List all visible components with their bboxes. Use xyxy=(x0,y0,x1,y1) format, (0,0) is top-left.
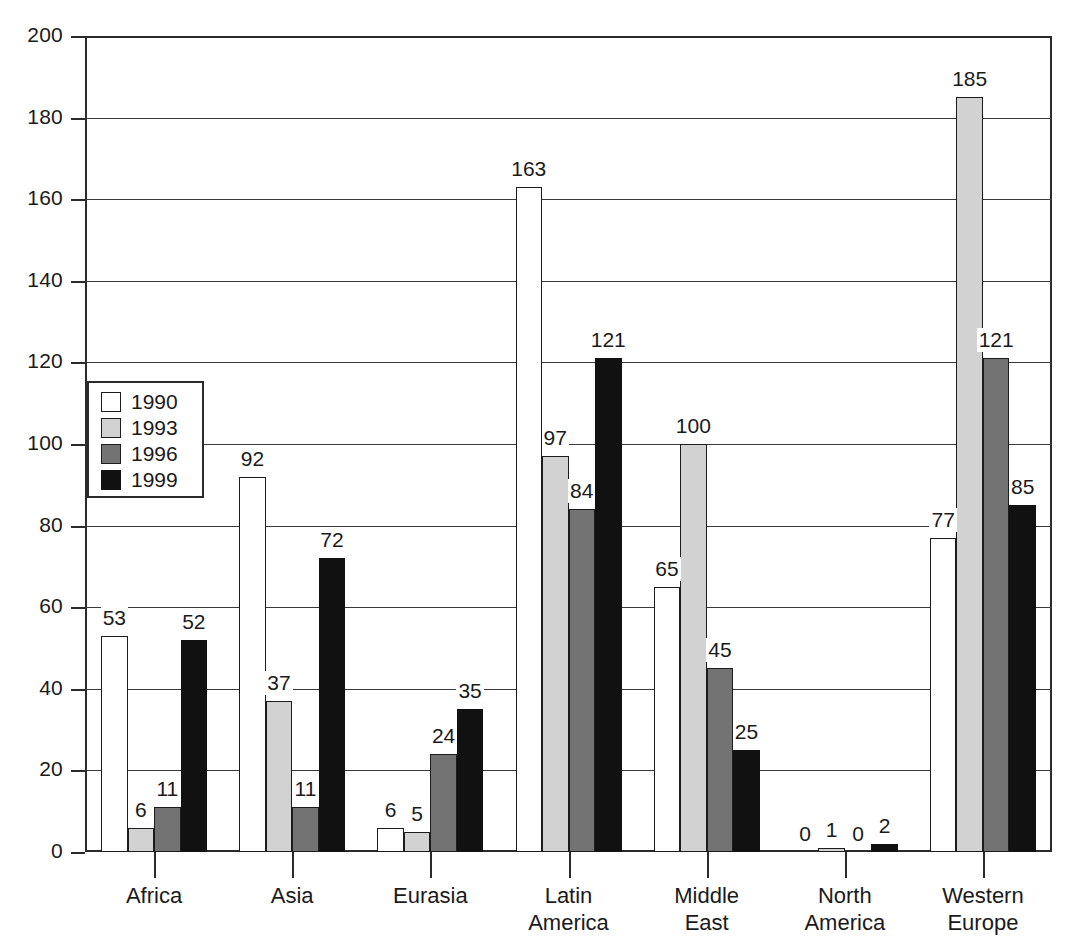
bar-value-africa-1996: 11 xyxy=(137,777,197,801)
bar-value-africa-1993: 6 xyxy=(111,798,171,822)
bar-value-western-europe-1996: 121 xyxy=(966,328,1026,352)
bar-value-asia-1996: 11 xyxy=(275,777,335,801)
bar-value-eurasia-1999: 35 xyxy=(440,679,500,703)
legend-item-1996[interactable]: 1996 xyxy=(101,441,202,467)
y-tick-80 xyxy=(71,526,85,528)
bar-value-middle-east-1996: 45 xyxy=(690,638,750,662)
bar-value-eurasia-1996: 24 xyxy=(414,724,474,748)
y-tick-40 xyxy=(71,689,85,691)
y-tick-160 xyxy=(71,199,85,201)
bar-western-europe-1996 xyxy=(983,358,1010,852)
bar-asia-1999 xyxy=(319,558,346,852)
bar-middle-east-1996 xyxy=(707,668,734,852)
bar-north-america-1993 xyxy=(818,848,845,852)
bar-value-eurasia-1993: 5 xyxy=(387,802,447,826)
bar-asia-1990 xyxy=(239,477,266,852)
bar-asia-1996 xyxy=(292,807,319,852)
gridline-140 xyxy=(85,281,1052,282)
bar-value-latin-america-1999: 121 xyxy=(578,328,638,352)
bar-latin-america-1999 xyxy=(595,358,622,852)
y-tick-label-120: 120 xyxy=(0,349,63,373)
bar-africa-1993 xyxy=(128,828,155,852)
legend-label-1990: 1990 xyxy=(131,390,178,414)
legend-swatch-icon-1999 xyxy=(101,470,121,490)
bar-eurasia-1990 xyxy=(377,828,404,852)
bar-value-north-america-1999: 2 xyxy=(855,814,915,838)
x-tick-label-middle-east: MiddleEast xyxy=(674,882,739,936)
bar-value-africa-1990: 53 xyxy=(84,606,144,630)
bar-western-europe-1999 xyxy=(1009,505,1036,852)
y-tick-label-140: 140 xyxy=(0,268,63,292)
y-tick-140 xyxy=(71,281,85,283)
bar-value-western-europe-1999: 85 xyxy=(993,475,1053,499)
y-tick-label-60: 60 xyxy=(0,594,63,618)
gridline-120 xyxy=(85,362,1052,363)
y-tick-label-100: 100 xyxy=(0,431,63,455)
bar-chart: 020406080100120140160180200 536115292371… xyxy=(0,0,1081,938)
legend-swatch-icon-1990 xyxy=(101,392,121,412)
x-tick-label-latin-america: LatinAmerica xyxy=(528,882,609,936)
bar-latin-america-1996 xyxy=(569,509,596,852)
bar-latin-america-1993 xyxy=(542,456,569,852)
bar-value-asia-1993: 37 xyxy=(249,671,309,695)
legend-item-1993[interactable]: 1993 xyxy=(101,415,202,441)
legend-item-1990[interactable]: 1990 xyxy=(101,389,202,415)
bar-value-middle-east-1993: 100 xyxy=(663,414,723,438)
bar-latin-america-1990 xyxy=(516,187,543,852)
bar-value-latin-america-1993: 97 xyxy=(525,426,585,450)
x-tick-latin-america xyxy=(569,852,571,878)
y-tick-180 xyxy=(71,118,85,120)
y-tick-0 xyxy=(71,852,85,854)
legend-swatch-icon-1993 xyxy=(101,418,121,438)
y-tick-label-160: 160 xyxy=(0,186,63,210)
y-tick-label-40: 40 xyxy=(0,676,63,700)
bar-eurasia-1993 xyxy=(404,832,431,852)
bar-value-latin-america-1990: 163 xyxy=(499,157,559,181)
x-tick-north-america xyxy=(845,852,847,878)
legend-swatch-icon-1996 xyxy=(101,444,121,464)
x-tick-africa xyxy=(154,852,156,878)
gridline-160 xyxy=(85,199,1052,200)
y-tick-label-20: 20 xyxy=(0,757,63,781)
gridline-180 xyxy=(85,118,1052,119)
legend-label-1993: 1993 xyxy=(131,416,178,440)
y-tick-label-200: 200 xyxy=(0,23,63,47)
bar-value-middle-east-1999: 25 xyxy=(716,720,776,744)
bar-africa-1999 xyxy=(181,640,208,852)
bar-middle-east-1999 xyxy=(733,750,760,852)
bar-value-asia-1990: 92 xyxy=(222,447,282,471)
x-tick-label-asia: Asia xyxy=(271,882,314,909)
bar-value-africa-1999: 52 xyxy=(164,610,224,634)
y-tick-60 xyxy=(71,607,85,609)
bar-value-western-europe-1993: 185 xyxy=(940,67,1000,91)
legend-item-1999[interactable]: 1999 xyxy=(101,467,202,493)
bar-value-asia-1999: 72 xyxy=(302,528,362,552)
bar-middle-east-1990 xyxy=(654,587,681,852)
bar-value-western-europe-1990: 77 xyxy=(913,508,973,532)
x-tick-eurasia xyxy=(430,852,432,878)
y-tick-label-0: 0 xyxy=(0,839,63,863)
x-tick-middle-east xyxy=(707,852,709,878)
x-tick-western-europe xyxy=(983,852,985,878)
legend: 1990199319961999 xyxy=(87,381,204,498)
legend-label-1999: 1999 xyxy=(131,468,178,492)
legend-label-1996: 1996 xyxy=(131,442,178,466)
x-tick-label-africa: Africa xyxy=(126,882,182,909)
bar-western-europe-1990 xyxy=(930,538,957,852)
y-tick-label-80: 80 xyxy=(0,513,63,537)
x-tick-label-eurasia: Eurasia xyxy=(393,882,468,909)
y-tick-label-180: 180 xyxy=(0,105,63,129)
x-tick-label-western-europe: WesternEurope xyxy=(942,882,1024,936)
bar-value-middle-east-1990: 65 xyxy=(637,557,697,581)
y-tick-200 xyxy=(71,36,85,38)
bar-western-europe-1993 xyxy=(956,97,983,852)
y-tick-100 xyxy=(71,444,85,446)
y-tick-120 xyxy=(71,362,85,364)
y-tick-20 xyxy=(71,770,85,772)
legend-rows: 1990199319961999 xyxy=(101,389,202,493)
x-tick-asia xyxy=(292,852,294,878)
x-tick-label-north-america: NorthAmerica xyxy=(804,882,885,936)
bar-value-latin-america-1996: 84 xyxy=(552,479,612,503)
